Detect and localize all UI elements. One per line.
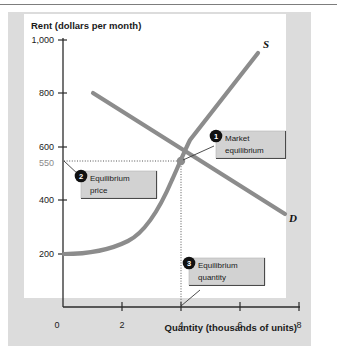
callout-1-badge-number: 1 (214, 132, 218, 141)
x-tick-label-8: 8 (296, 320, 301, 330)
callout-3-line1: Equilibrium (198, 261, 238, 270)
callout-3-leader-line (181, 290, 200, 306)
y-tick-label-600: 600 (39, 142, 54, 152)
y-tick-label-200: 200 (39, 249, 54, 259)
y-tick-label-550: 550 (39, 158, 54, 168)
callout-1-line1: Market (225, 134, 250, 143)
figure-root: Rent (dollars per month) Quantity (thous… (0, 0, 337, 358)
y-tick-label-800: 800 (39, 88, 54, 98)
y-tick-label-1000: 1,000 (31, 35, 54, 45)
x-tick-label-2: 2 (119, 320, 124, 330)
x-axis-title: Quantity (thousands of units) (165, 322, 297, 333)
callout-3-badge-number: 3 (187, 259, 191, 268)
callout-1-line2: equilibrium (225, 146, 264, 155)
callout-equilibrium-price[interactable]: 2 Equilibrium price (75, 170, 157, 199)
chart-svg: Rent (dollars per month) Quantity (thous… (0, 0, 337, 358)
callout-3-line2: quantity (198, 273, 226, 282)
equilibrium-point-marker (177, 157, 185, 165)
y-tick-label-0: 0 (54, 320, 59, 330)
x-tick-label-6: 6 (237, 320, 242, 330)
y-axis-title: Rent (dollars per month) (31, 20, 141, 31)
supply-curve-label: S (263, 38, 269, 50)
demand-curve-label: D (288, 212, 297, 224)
x-tick-label-4: 4 (178, 320, 183, 330)
callout-2-badge-number: 2 (79, 172, 83, 181)
callout-market-equilibrium[interactable]: 1 Market equilibrium (210, 130, 286, 159)
callout-equilibrium-quantity[interactable]: 3 Equilibrium quantity (183, 257, 265, 286)
y-tick-label-400: 400 (39, 195, 54, 205)
callout-2-line1: Equilibrium (90, 174, 130, 183)
callout-2-line2: price (90, 186, 108, 195)
